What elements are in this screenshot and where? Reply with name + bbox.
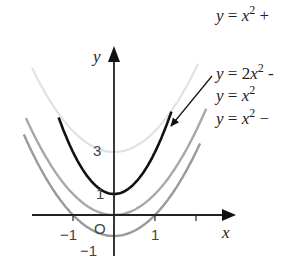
- legend: y = x2 + y = 2x2 - y = x2 y = x2 −: [214, 3, 274, 128]
- x-tick-label-1: 1: [151, 226, 159, 243]
- y-axis-arrowhead-icon: [108, 46, 120, 62]
- y-tick-label-1: 1: [96, 185, 104, 202]
- y-tick-label-neg1: −1: [80, 242, 97, 259]
- y-tick-label-3: 3: [93, 142, 101, 159]
- legend-label-x2: y = x2: [214, 83, 255, 105]
- y-axis-label: y: [91, 47, 101, 66]
- x-tick-label-neg1: −1: [60, 226, 77, 243]
- curve-3: [24, 134, 200, 236]
- legend-label-x2-minus-1: y = x2 −: [214, 106, 269, 128]
- parabola-chart: y x 3 1 −1 1 −1 O y = x2 + y = 2x2 - y =…: [0, 0, 294, 261]
- legend-label-x2-plus-3: y = x2 +: [214, 3, 269, 25]
- origin-label: O: [94, 220, 106, 237]
- curve-group: [24, 64, 207, 236]
- x-axis-label: x: [221, 223, 230, 242]
- x-axis-arrowhead-icon: [222, 209, 236, 221]
- curve-2: [26, 109, 206, 215]
- curve-0: [32, 64, 198, 152]
- legend-label-2x2-plus-1: y = 2x2 -: [214, 61, 274, 83]
